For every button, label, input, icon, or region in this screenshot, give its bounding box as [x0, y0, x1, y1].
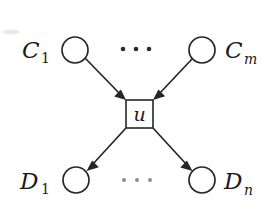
edge-c1-to-u — [86, 59, 127, 101]
edge-cm-to-u — [153, 59, 193, 101]
ellipsis-dot-icon — [121, 47, 126, 52]
bayesian-network-diagram: C 1 C m u D 1 — [0, 0, 278, 212]
ellipsis-dot-icon — [122, 178, 126, 182]
node-label-dn: D — [223, 168, 242, 194]
node-label-c1: C — [22, 37, 40, 63]
node-circle-cm[interactable] — [189, 37, 215, 63]
node-sublabel-c1: 1 — [41, 50, 50, 66]
node-d1[interactable]: D 1 — [19, 167, 89, 197]
top-ellipsis — [121, 47, 152, 52]
node-c1[interactable]: C 1 — [22, 37, 88, 66]
node-dn[interactable]: D n — [189, 167, 253, 198]
node-sublabel-cm: m — [244, 51, 257, 67]
node-label-u: u — [133, 103, 145, 125]
node-u[interactable]: u — [126, 100, 153, 128]
figure-canvas: C 1 C m u D 1 — [0, 0, 278, 212]
node-cm[interactable]: C m — [189, 37, 257, 67]
arrowhead-cm-to-u — [153, 89, 165, 100]
edge-line-cm-to-u — [159, 59, 193, 95]
node-sublabel-d1: 1 — [41, 181, 50, 197]
edge-line-u-to-d1 — [93, 128, 127, 165]
node-label-cm: C — [225, 37, 243, 63]
arrowhead-u-to-d1 — [87, 160, 99, 171]
ellipsis-dot-icon — [134, 47, 139, 52]
scan-artifact — [2, 30, 20, 35]
node-sublabel-dn: n — [244, 182, 253, 198]
ellipsis-dot-icon — [148, 178, 152, 182]
bottom-ellipsis — [122, 178, 152, 182]
ellipsis-dot-icon — [135, 178, 139, 182]
arrowhead-c1-to-u — [114, 90, 126, 100]
ellipsis-dot-icon — [147, 47, 152, 52]
edge-u-to-dn — [153, 128, 193, 171]
node-label-d1: D — [19, 168, 38, 194]
node-circle-d1[interactable] — [63, 167, 89, 193]
node-circle-dn[interactable] — [189, 167, 215, 193]
edge-u-to-d1 — [87, 128, 127, 171]
arrowhead-u-to-dn — [180, 160, 192, 171]
node-circle-c1[interactable] — [62, 37, 88, 63]
edge-line-u-to-dn — [153, 128, 187, 165]
edge-line-c1-to-u — [86, 59, 121, 95]
